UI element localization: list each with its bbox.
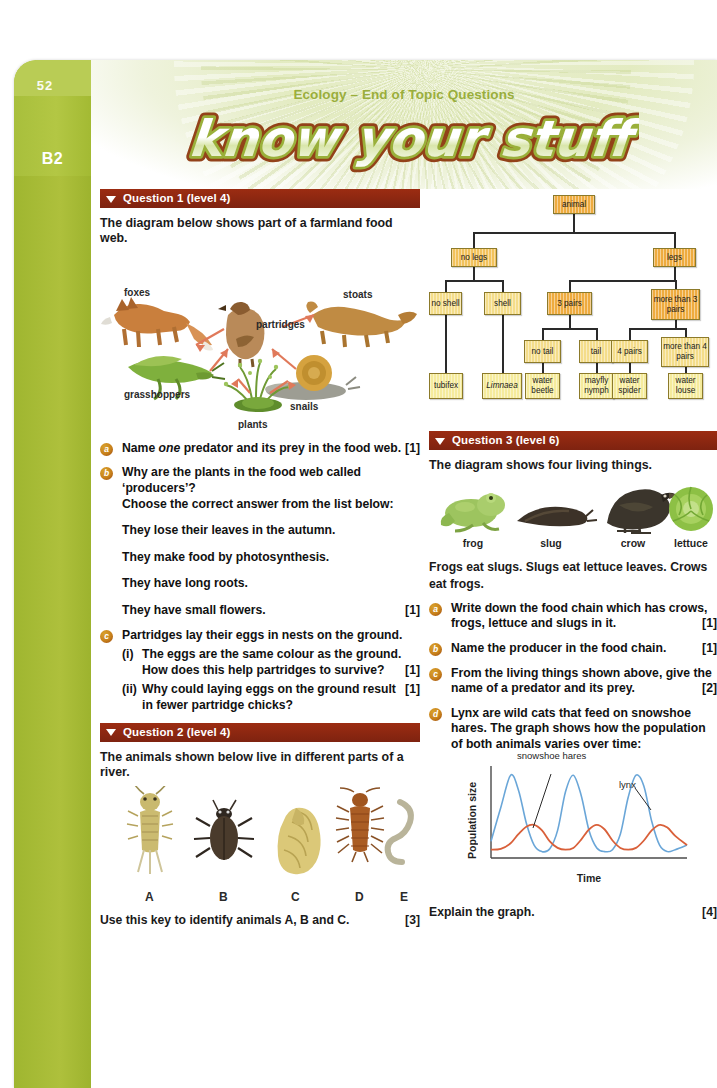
sub-ii-body: Why could laying eggs on the ground resu…: [142, 682, 420, 713]
label-grasshoppers: grasshoppers: [124, 389, 190, 400]
question-3-item-a-body: Write down the food chain which has crow…: [451, 601, 717, 632]
fox-illustration: [101, 297, 213, 351]
tree-node-no-shell: no shell: [429, 292, 462, 315]
population-graph: Population size snowshoe hares lynx Time: [469, 762, 709, 890]
know-your-stuff-wordmark: know your stuff know your stuff know you…: [91, 102, 717, 176]
creature-label-crow: crow: [611, 537, 655, 549]
page-number: 52: [22, 75, 68, 97]
series-lynx: [491, 824, 687, 849]
textbook-page: 52 B2 Ecology – End of Topic Questions: [0, 0, 717, 1088]
tree-node-no-legs: no legs: [451, 248, 497, 267]
tree-leaf-water-louse: water louse: [668, 373, 703, 399]
tree-node-4-pairs: 4 pairs: [611, 340, 648, 363]
question-1-header: Question 1 (level 4): [100, 189, 420, 208]
stoat-illustration: [306, 301, 417, 346]
question-3-header: Question 3 (level 6): [429, 431, 717, 450]
question-1-header-label: Question 1 (level 4): [123, 189, 230, 208]
tree-node-3-pairs: 3 pairs: [547, 292, 592, 315]
question-3-item-a: a Write down the food chain which has cr…: [429, 601, 717, 632]
question-1-item-a-marks: [1]: [405, 441, 420, 457]
question-1-item-b: b Why are the plants in the food web cal…: [100, 465, 420, 618]
tree-leaf-mayfly-nymph: mayfly nymph: [579, 373, 614, 399]
creature-label-lettuce: lettuce: [667, 537, 715, 549]
sub-i-text2: How does this help partridges to survive…: [142, 663, 397, 679]
series-snowshoe-hares: [491, 774, 687, 851]
question-3-closing-row: Explain the graph. [4]: [429, 904, 717, 920]
lynx-leader-line: [635, 788, 651, 810]
specimen-label-e: E: [400, 890, 408, 904]
question-3-item-c-body: From the living things shown above, give…: [451, 666, 717, 697]
spine-topic-code: B2: [14, 142, 91, 176]
snail-illustration: [265, 355, 360, 400]
triangle-down-icon-3: [435, 438, 445, 445]
tree-node-more-than-3-pairs: more than 3 pairs: [651, 289, 700, 320]
tree-line-root-down: [573, 214, 575, 232]
question-1-option-2: They make food by photosynthesis.: [122, 550, 420, 566]
tree-line-noLegs-down: [473, 232, 475, 248]
tree-node-tail: tail: [579, 340, 613, 363]
frog-illustration: [441, 493, 505, 531]
tree-leaf-limnaea: Limnaea: [482, 373, 522, 399]
sub-i-text: The eggs are the same colour as the grou…: [142, 647, 420, 663]
tree-line-shell-down: [502, 280, 504, 292]
label-stoats: stoats: [343, 289, 372, 300]
label-plants: plants: [238, 419, 267, 430]
question-1-item-b-marks: [1]: [405, 603, 420, 619]
question-1-item-c-sub-i: (i) The eggs are the same colour as the …: [122, 647, 420, 678]
four-living-things-diagram: frog slug crow lettuce: [429, 479, 717, 553]
question-1-item-c: c Partridges lay their eggs in nests on …: [100, 628, 420, 714]
specimen-d-illustration: [336, 788, 384, 862]
graph-annotation-snowshoe-hares: snowshoe hares: [517, 750, 586, 761]
specimen-b-illustration: [194, 800, 254, 860]
graph-annotation-lynx: lynx: [619, 779, 636, 790]
question-3-item-c-text: From the living things shown above, give…: [451, 666, 712, 696]
tree-line-legs-stem: [674, 267, 676, 280]
tree-line-tail-down: [596, 328, 598, 340]
question-1-item-b-text: Why are the plants in the food web calle…: [122, 465, 420, 496]
tree-line-noLegs-stem: [473, 267, 475, 280]
specimen-label-c: C: [291, 890, 300, 904]
question-3-statement: Frogs eat slugs. Slugs eat lettuce leave…: [429, 559, 717, 591]
creature-label-frog: frog: [451, 537, 495, 549]
tree-line-noTail-stem: [542, 363, 544, 373]
tree-node-more-than-4-pairs: more than 4 pairs: [661, 337, 709, 367]
tree-line-4pairs-down: [629, 328, 631, 340]
question-2-header: Question 2 (level 4): [100, 723, 420, 742]
graph-x-axis-label: Time: [469, 872, 709, 884]
question-3-closing: Explain the graph.: [429, 904, 694, 920]
specimen-a-illustration: [127, 786, 173, 874]
creature-label-slug: slug: [529, 537, 573, 549]
question-3-item-b-text: Name the producer in the food chain.: [451, 641, 694, 657]
question-1-option-4: They have small flowers.: [122, 603, 397, 619]
partridge-illustration: [218, 302, 264, 367]
food-web-diagram: foxes stoats partridges grasshoppers sna…: [100, 253, 420, 441]
tree-line-3pairs-stem: [569, 315, 571, 328]
specimen-e-illustration: [388, 802, 411, 862]
tree-leaf-tubifex: tubifex: [429, 373, 463, 399]
tree-line-shell-stem: [502, 315, 504, 373]
tree-line-3pairs-down: [569, 280, 571, 292]
question-1-option-1: They lose their leaves in the autumn.: [122, 523, 420, 539]
question-3-item-b: b Name the producer in the food chain. […: [429, 641, 717, 657]
question-3-header-label: Question 3 (level 6): [452, 431, 559, 450]
label-snails: snails: [290, 401, 318, 412]
graph-y-axis-label: Population size: [465, 772, 479, 868]
question-3-item-a-text: Write down the food chain which has crow…: [451, 601, 707, 631]
question-1-item-a-rest: predator and its prey in the food web.: [180, 441, 401, 455]
tree-line-more3-stem: [675, 320, 677, 328]
specimen-label-a: A: [145, 890, 154, 904]
specimen-c-illustration: [278, 808, 321, 874]
question-3-item-c-marks: [2]: [702, 681, 717, 697]
question-1-item-b-body: Why are the plants in the food web calle…: [122, 465, 420, 618]
question-1-item-c-sub-ii: (ii) Why could laying eggs on the ground…: [122, 682, 420, 713]
left-column: Question 1 (level 4) The diagram below s…: [100, 189, 420, 929]
tree-line-legs-down: [674, 232, 676, 248]
tree-line-root-bar: [473, 232, 675, 234]
question-3-closing-marks: [4]: [702, 904, 717, 920]
tree-node-legs: legs: [653, 248, 696, 267]
triangle-down-icon: [106, 196, 116, 203]
tree-line-noShell-down: [445, 280, 447, 292]
question-1-item-b-text2: Choose the correct answer from the list …: [122, 497, 420, 513]
page-banner: Ecology – End of Topic Questions know yo…: [91, 60, 717, 189]
sub-ii-marks: [1]: [405, 682, 420, 713]
